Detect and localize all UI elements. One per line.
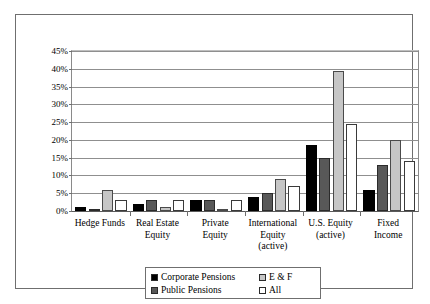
y-axis-tick-mark [69,87,72,88]
y-axis-tick-mark [69,140,72,141]
bar [102,190,113,211]
x-axis-tick-mark [360,211,361,216]
bar [262,193,273,211]
x-axis-tick-mark [130,211,131,216]
legend-entry-all: All [259,285,281,296]
y-axis-tick-label: 10% [34,171,68,180]
chart-frame: 0%5%10%15%20%25%30%35%40%45% Hedge Funds… [15,14,413,289]
bar [248,197,259,211]
y-axis-tick-label: 45% [34,47,68,56]
legend-swatch-icon [259,287,266,294]
legend-row: Corporate Pensions E & F [151,271,315,284]
legend-entry-ef: E & F [259,272,292,283]
gridline [72,69,418,70]
x-axis-category-label: Fixed Income [351,218,425,241]
bar [319,158,330,211]
y-axis-tick-label: 40% [34,64,68,73]
legend-label: All [269,285,281,296]
bar [333,71,344,211]
bar [204,200,215,211]
bar [363,190,374,211]
y-axis-tick-mark [69,193,72,194]
bar [275,179,286,211]
bar [133,204,144,211]
legend-entry-public-pensions: Public Pensions [151,285,259,296]
gridline [72,140,418,141]
bar [377,165,388,211]
gridline [72,122,418,123]
y-axis-tick-label: 5% [34,189,68,198]
legend-label: E & F [269,272,292,283]
y-axis-tick-label: 0% [34,207,68,216]
y-axis-tick-label: 25% [34,118,68,127]
y-axis-tick-mark [69,69,72,70]
gridline [72,51,418,52]
y-axis-tick-label: 35% [34,82,68,91]
bar [190,200,201,211]
plot-area: 0%5%10%15%20%25%30%35%40%45% [71,50,419,212]
x-axis-tick-mark [187,211,188,216]
y-axis-tick-mark [69,158,72,159]
gridline [72,104,418,105]
y-axis-tick-label: 30% [34,100,68,109]
legend-swatch-icon [151,274,158,281]
bar [346,124,357,211]
gridline [72,175,418,176]
legend-row: Public Pensions All [151,284,315,297]
legend-swatch-icon [259,274,266,281]
bar [390,140,401,211]
bar [160,207,171,211]
legend-label: Public Pensions [161,285,221,296]
y-axis-tick-mark [69,104,72,105]
chart-legend: Corporate Pensions E & F Public Pensions… [145,267,321,299]
bar [89,209,100,211]
x-axis-tick-mark [245,211,246,216]
x-axis-tick-mark [303,211,304,216]
bar [217,209,228,211]
bar [173,200,184,211]
gridline [72,87,418,88]
y-axis-tick-label: 20% [34,135,68,144]
bar [75,207,86,211]
bar [146,200,157,211]
legend-swatch-icon [151,287,158,294]
legend-entry-corporate-pensions: Corporate Pensions [151,272,259,283]
y-axis-tick-mark [69,175,72,176]
bar [115,200,126,211]
bar [288,186,299,211]
legend-label: Corporate Pensions [161,272,235,283]
bar [231,200,242,211]
y-axis-tick-mark [69,51,72,52]
y-axis-tick-label: 15% [34,153,68,162]
gridline [72,158,418,159]
bar [404,161,415,211]
chart-figure: 0%5%10%15%20%25%30%35%40%45% Hedge Funds… [0,0,430,304]
y-axis-tick-mark [69,211,72,212]
bar [306,145,317,211]
y-axis-tick-mark [69,122,72,123]
